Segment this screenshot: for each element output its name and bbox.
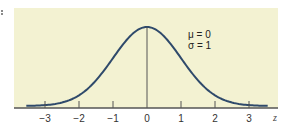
tick-label: 0 <box>144 113 150 124</box>
tick-label: 2 <box>212 113 218 124</box>
mu-label: μ = 0 <box>188 29 211 40</box>
tick-label: −3 <box>39 113 51 124</box>
tick-label: −2 <box>73 113 85 124</box>
tick-label: −1 <box>107 113 119 124</box>
x-axis-label: z <box>272 112 277 123</box>
tick-label: 3 <box>246 113 252 124</box>
normal-distribution-chart: −3−2−10123 z μ = 0 σ = 1 <box>0 0 288 129</box>
sigma-label: σ = 1 <box>188 40 212 51</box>
plot-background <box>14 8 278 108</box>
tick-label: 1 <box>178 113 184 124</box>
